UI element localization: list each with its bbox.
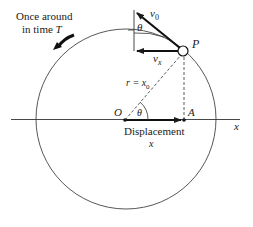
- caption-line1: Once around: [16, 10, 73, 22]
- theta-label-origin: θ: [137, 107, 142, 118]
- vx-label: vx: [153, 52, 162, 67]
- shm-reference-circle-diagram: Once around in time T v0 θ P vx r = x0 θ…: [0, 0, 253, 227]
- x-axis-label: x: [233, 120, 239, 132]
- theta-arc-top: [134, 33, 164, 37]
- point-p-label: P: [191, 37, 200, 51]
- origin-label: O: [114, 106, 122, 118]
- displacement-label: Displacement: [124, 125, 184, 137]
- theta-label-top: θ: [137, 21, 143, 33]
- v0-label: v0: [150, 7, 159, 22]
- radius-label: r = x0: [126, 77, 150, 91]
- rotation-direction-arrow: [58, 35, 74, 47]
- point-a-label: A: [187, 106, 195, 118]
- point-p-marker: [178, 46, 188, 56]
- caption-line2: in time T: [22, 23, 63, 35]
- displacement-var-label: x: [148, 138, 154, 149]
